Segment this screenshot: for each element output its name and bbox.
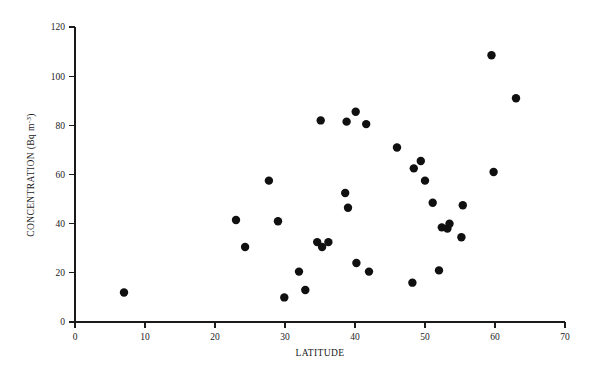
x-tick-label-50: 50 <box>420 332 430 342</box>
data-point <box>274 217 282 225</box>
data-point <box>429 199 437 207</box>
x-tick-label-30: 30 <box>280 332 290 342</box>
data-point <box>365 267 373 275</box>
data-point <box>457 233 465 241</box>
data-point <box>120 288 128 296</box>
data-point <box>421 176 429 184</box>
x-tick-label-10: 10 <box>140 332 150 342</box>
data-point <box>487 51 495 59</box>
y-tick-label-100: 100 <box>51 72 66 82</box>
y-tick-label-20: 20 <box>56 268 66 278</box>
tick-label-group: 010203040506070020406080100120 <box>51 22 570 342</box>
x-tick-label-20: 20 <box>210 332 220 342</box>
data-point <box>445 219 453 227</box>
data-point <box>301 286 309 294</box>
x-tick-label-70: 70 <box>560 332 570 342</box>
data-point <box>459 201 467 209</box>
data-point <box>295 267 303 275</box>
x-tick-label-60: 60 <box>490 332 500 342</box>
y-tick-label-120: 120 <box>51 22 66 32</box>
data-point <box>317 116 325 124</box>
data-point <box>512 94 520 102</box>
data-point <box>362 120 370 128</box>
plot-canvas: 010203040506070020406080100120 LATITUDE … <box>0 0 597 376</box>
data-point <box>393 143 401 151</box>
data-point <box>232 216 240 224</box>
data-point <box>489 168 497 176</box>
y-tick-label-80: 80 <box>56 121 66 131</box>
y-axis-title: CONCENTRATION (Bq m-3) <box>25 113 37 237</box>
data-points-group <box>120 51 520 302</box>
data-point <box>342 117 350 125</box>
data-point <box>352 108 360 116</box>
axis-titles-group: LATITUDE CONCENTRATION (Bq m-3) <box>25 113 345 358</box>
data-point <box>341 189 349 197</box>
data-point <box>241 243 249 251</box>
data-point <box>352 259 360 267</box>
scatter-chart-figure: 010203040506070020406080100120 LATITUDE … <box>0 0 597 376</box>
x-axis-title: LATITUDE <box>295 348 344 358</box>
data-point <box>410 164 418 172</box>
data-point <box>265 176 273 184</box>
x-tick-label-40: 40 <box>350 332 360 342</box>
tick-group <box>69 27 565 328</box>
y-tick-label-40: 40 <box>56 219 66 229</box>
data-point <box>435 266 443 274</box>
x-tick-label-0: 0 <box>73 332 78 342</box>
y-tick-label-60: 60 <box>56 170 66 180</box>
data-point <box>324 238 332 246</box>
data-point <box>280 293 288 301</box>
data-point <box>344 203 352 211</box>
data-point <box>408 278 416 286</box>
y-tick-label-0: 0 <box>60 317 65 327</box>
data-point <box>417 157 425 165</box>
